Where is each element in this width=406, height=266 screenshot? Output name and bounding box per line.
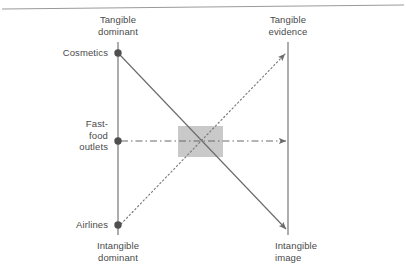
data-point-cosmetics[interactable]	[114, 49, 121, 56]
data-point-label-cosmetics: Cosmetics	[24, 47, 108, 59]
data-point-label-airlines: Airlines	[24, 219, 108, 231]
connector-cosmetics-to-intangible-image	[120, 55, 286, 229]
axis-label-tangible-evidence: Tangible evidence	[232, 14, 344, 37]
axis-label-tangible-dominant: Tangible dominant	[62, 14, 174, 37]
data-point-airlines[interactable]	[114, 221, 121, 228]
data-point-label-fast-food-outlets: Fast- food outlets	[24, 118, 108, 153]
page-top-rule	[2, 5, 404, 9]
data-point-fast-food-outlets[interactable]	[114, 137, 121, 144]
axis-label-intangible-image: Intangible image	[275, 240, 387, 263]
axis-label-intangible-dominant: Intangible dominant	[62, 240, 174, 263]
figure-canvas: Tangible dominant Tangible evidence Inta…	[0, 0, 406, 266]
